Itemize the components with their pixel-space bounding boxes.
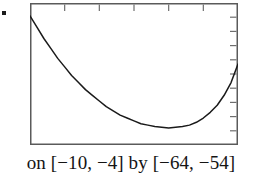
plot-frame	[31, 4, 238, 145]
figure-container: on [−10, −4] by [−64, −54]	[0, 0, 262, 181]
figure-caption: on [−10, −4] by [−64, −54]	[0, 150, 262, 176]
plot-svg	[30, 3, 238, 145]
plot-area	[30, 3, 238, 145]
bullet-marker-icon	[2, 11, 6, 15]
